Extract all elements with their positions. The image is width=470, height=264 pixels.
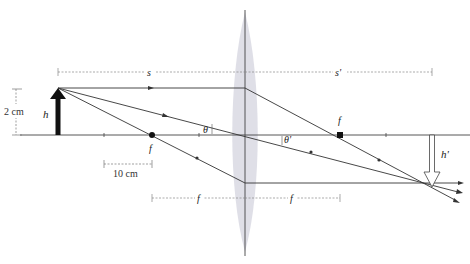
angle-theta-label: θ bbox=[203, 124, 208, 135]
focal-right-label: f bbox=[338, 115, 342, 126]
object-height-label: h bbox=[43, 108, 49, 120]
focal-left-label: f bbox=[149, 143, 153, 154]
scale-length-label: 10 cm bbox=[113, 168, 138, 179]
focal-point-left bbox=[149, 132, 155, 138]
lens bbox=[232, 10, 258, 256]
focal-point-right bbox=[337, 132, 343, 138]
arrowhead-icon bbox=[162, 113, 169, 117]
arrowhead-icon bbox=[195, 156, 198, 159]
arrowhead-icon bbox=[453, 198, 460, 203]
object-arrow bbox=[50, 88, 66, 135]
image-arrow bbox=[424, 135, 440, 187]
angle-theta-prime-label: θ' bbox=[284, 134, 292, 145]
lens-ray-diagram: 2 cm s s' 10 cm f f bbox=[0, 0, 470, 264]
scale-height-label: 2 cm bbox=[4, 106, 24, 117]
arrowhead-icon bbox=[456, 189, 463, 194]
object-distance-label: s bbox=[147, 67, 151, 78]
arrowhead-icon bbox=[148, 86, 154, 90]
image-height-label: h' bbox=[441, 148, 450, 160]
arrowhead-icon bbox=[377, 158, 380, 161]
arrowhead-icon bbox=[458, 181, 464, 185]
rays bbox=[58, 88, 458, 200]
scale-length-dimension bbox=[104, 160, 152, 168]
image-distance-label: s' bbox=[335, 67, 342, 78]
ray-arrowheads bbox=[148, 86, 464, 203]
arrowhead-icon bbox=[309, 150, 312, 153]
